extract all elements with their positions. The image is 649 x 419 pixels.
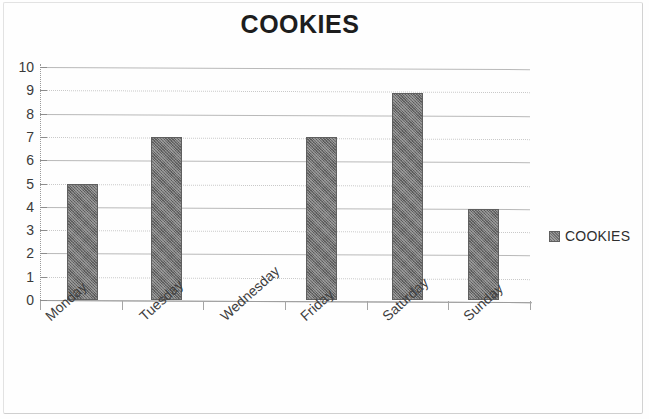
y-axis-tick-label: 1	[8, 270, 34, 284]
x-axis-tick-mark	[530, 301, 531, 310]
x-axis-category-labels: MondayTuesdayWednesdayFridaySaturdaySund…	[40, 312, 532, 407]
y-axis-tick-mark	[40, 184, 47, 185]
legend-swatch-cookies	[549, 231, 560, 242]
gridline	[40, 207, 530, 210]
y-axis-tick-label: 6	[8, 153, 34, 167]
y-axis-tick-label: 3	[8, 223, 34, 237]
x-axis-tick-mark	[448, 301, 449, 310]
y-axis-tick-mark	[40, 300, 47, 301]
y-axis-tick-labels: 012345678910	[4, 67, 34, 300]
gridline	[40, 277, 530, 280]
x-axis-tick-mark	[40, 301, 41, 310]
chart-legend: COOKIES	[549, 228, 630, 244]
bar-friday[interactable]	[306, 137, 337, 300]
bar-tuesday[interactable]	[151, 137, 182, 300]
y-axis-tick-label: 8	[8, 107, 34, 121]
y-axis-tick-label: 10	[8, 60, 34, 74]
y-axis-tick-label: 0	[8, 293, 34, 307]
y-axis-tick-mark	[40, 207, 47, 208]
legend-label-cookies: COOKIES	[565, 228, 630, 244]
chart-title: COOKIES	[0, 10, 600, 39]
y-axis-tick-mark	[40, 253, 47, 254]
x-axis-tick-mark	[203, 301, 204, 310]
gridline	[40, 253, 530, 256]
x-axis-tick-mark	[285, 301, 286, 310]
y-axis-tick-mark	[40, 90, 47, 91]
gridline	[40, 67, 530, 70]
y-axis-tick-mark	[40, 160, 47, 161]
y-axis-tick-label: 4	[8, 200, 34, 214]
chart-page: COOKIES 012345678910 MondayTuesdayWednes…	[0, 0, 649, 419]
gridline	[40, 90, 530, 93]
y-axis-tick-label: 7	[8, 130, 34, 144]
bar-saturday[interactable]	[392, 93, 423, 300]
y-axis-tick-mark	[40, 67, 47, 68]
y-axis-tick-mark	[40, 114, 47, 115]
y-axis-tick-mark	[40, 230, 47, 231]
x-axis-tick-mark	[367, 301, 368, 310]
y-axis-tick-label: 5	[8, 177, 34, 191]
y-axis-tick-label: 2	[8, 246, 34, 260]
x-axis-tick-mark	[122, 301, 123, 310]
gridline	[40, 137, 530, 140]
plot-area	[40, 67, 530, 300]
gridline	[40, 160, 530, 163]
y-axis-tick-label: 9	[8, 83, 34, 97]
y-axis-tick-mark	[40, 137, 47, 138]
gridline	[40, 184, 530, 187]
y-axis-tick-mark	[40, 277, 47, 278]
gridline	[40, 230, 530, 233]
gridline	[40, 114, 530, 117]
